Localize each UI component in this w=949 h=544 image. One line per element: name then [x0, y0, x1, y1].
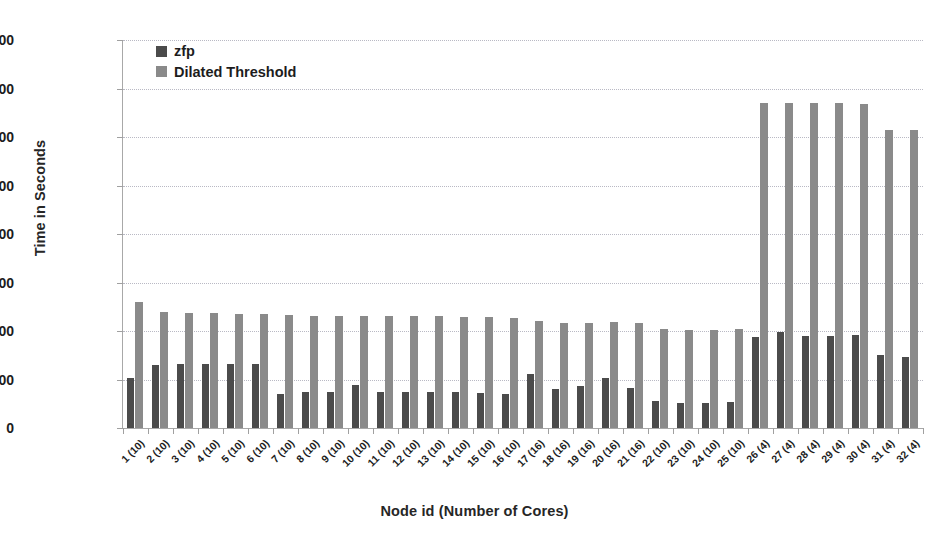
bar — [460, 317, 468, 428]
bar — [735, 329, 743, 428]
bar — [835, 103, 843, 428]
bars-layer — [123, 40, 923, 428]
x-tick-mark — [373, 428, 374, 434]
x-tick-mark — [723, 428, 724, 434]
x-tick-mark — [148, 428, 149, 434]
bar-group — [302, 40, 318, 428]
y-tick-label: 1600 — [0, 32, 14, 48]
x-tick-mark — [673, 428, 674, 434]
bar — [585, 323, 593, 428]
bar — [685, 330, 693, 428]
bar-group — [177, 40, 193, 428]
bar-group — [427, 40, 443, 428]
y-tick-label: 0 — [0, 420, 14, 436]
bar — [210, 313, 218, 428]
bar — [885, 130, 893, 428]
bar — [327, 392, 335, 428]
bar — [827, 336, 835, 428]
bar — [160, 312, 168, 428]
bar — [760, 103, 768, 428]
bar-group — [577, 40, 593, 428]
y-axis-title: Time in Seconds — [32, 98, 48, 298]
bar-group — [777, 40, 793, 428]
legend-label: zfp — [174, 44, 195, 59]
x-tick-mark — [573, 428, 574, 434]
x-tick-mark — [623, 428, 624, 434]
x-tick-mark — [923, 428, 924, 434]
x-tick-mark — [873, 428, 874, 434]
x-tick-mark — [173, 428, 174, 434]
bar — [177, 364, 185, 428]
x-tick-mark — [423, 428, 424, 434]
x-tick-mark — [323, 428, 324, 434]
bar — [535, 321, 543, 428]
legend: zfpDilated Threshold — [156, 44, 296, 85]
bar — [802, 336, 810, 428]
bar — [910, 130, 918, 428]
y-tick-label: 800 — [0, 226, 14, 242]
bar-group — [352, 40, 368, 428]
bar — [902, 357, 910, 428]
bar — [452, 392, 460, 428]
legend-item: zfp — [156, 44, 296, 59]
x-tick-mark — [298, 428, 299, 434]
x-tick-mark — [798, 428, 799, 434]
bar-group — [527, 40, 543, 428]
x-tick-mark — [123, 428, 124, 434]
legend-swatch — [156, 66, 167, 77]
bar — [285, 315, 293, 428]
y-tick-label: 1400 — [0, 81, 14, 97]
bar — [485, 317, 493, 428]
bar — [610, 322, 618, 428]
bar — [277, 394, 285, 428]
bar — [377, 392, 385, 428]
bar — [302, 392, 310, 428]
bar — [660, 329, 668, 428]
bar — [527, 374, 535, 428]
bar-group — [152, 40, 168, 428]
bar — [702, 403, 710, 428]
x-tick-mark — [398, 428, 399, 434]
bar — [635, 323, 643, 428]
bar — [752, 337, 760, 428]
bar — [385, 316, 393, 428]
x-tick-mark — [448, 428, 449, 434]
bar — [560, 323, 568, 428]
bar — [727, 402, 735, 428]
x-tick-mark — [648, 428, 649, 434]
bar — [602, 378, 610, 428]
x-axis-title: Node id (Number of Cores) — [0, 503, 949, 519]
bar — [152, 365, 160, 428]
bar — [202, 364, 210, 428]
bar — [627, 388, 635, 428]
bar — [710, 330, 718, 428]
bar — [135, 302, 143, 428]
x-tick-mark — [498, 428, 499, 434]
bar — [652, 401, 660, 428]
x-tick-mark — [548, 428, 549, 434]
bar — [435, 316, 443, 428]
bar-group — [827, 40, 843, 428]
x-tick-mark — [773, 428, 774, 434]
x-tick-mark — [348, 428, 349, 434]
bar — [577, 386, 585, 428]
bar-group — [552, 40, 568, 428]
bar-group — [127, 40, 143, 428]
bar-group — [452, 40, 468, 428]
bar-group — [377, 40, 393, 428]
bar-group — [702, 40, 718, 428]
bar-group — [202, 40, 218, 428]
bar — [552, 389, 560, 428]
bar — [252, 364, 260, 428]
bar-group — [652, 40, 668, 428]
bar-group — [902, 40, 918, 428]
legend-label: Dilated Threshold — [174, 65, 296, 80]
x-tick-mark — [898, 428, 899, 434]
bar-group — [602, 40, 618, 428]
bar-group — [802, 40, 818, 428]
plot-area — [122, 40, 923, 429]
x-tick-mark — [823, 428, 824, 434]
bar-group — [477, 40, 493, 428]
bar — [310, 316, 318, 428]
x-tick-mark — [198, 428, 199, 434]
